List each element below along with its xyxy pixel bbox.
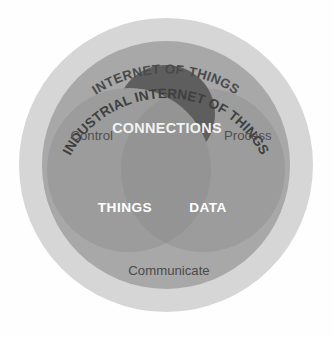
iot-diagram-root: INTERNET OF THINGS INDUSTRIAL INTERNET O… (0, 0, 333, 337)
label-process: Process (224, 128, 272, 143)
label-things: THINGS (98, 200, 152, 215)
label-communicate: Communicate (128, 263, 209, 278)
label-control: Control (70, 128, 113, 143)
core-label-connections: CONNECTIONS (112, 120, 222, 136)
iot-diagram-svg: INTERNET OF THINGS INDUSTRIAL INTERNET O… (0, 0, 333, 337)
label-data: DATA (189, 200, 227, 215)
